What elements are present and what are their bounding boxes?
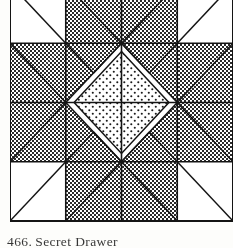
page-root: 466.Secret Drawer	[0, 0, 233, 248]
quilt-block-figure	[0, 0, 233, 226]
quilt-block-diagram	[0, 0, 233, 226]
caption-name: Secret Drawer	[35, 234, 118, 248]
block-caption: 466.Secret Drawer	[7, 232, 227, 248]
caption-number: 466.	[7, 234, 32, 248]
